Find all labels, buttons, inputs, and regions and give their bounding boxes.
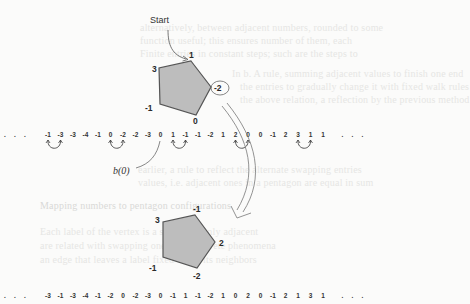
sequence-value: 3 <box>309 292 313 299</box>
ellipsis-dot: . <box>14 131 16 138</box>
sequence-value: -2 <box>133 131 139 138</box>
sequence-value: 1 <box>184 292 188 299</box>
top-vertex-label: 0 <box>193 116 198 126</box>
sequence-value: 1 <box>321 131 325 138</box>
sequence-value: 0 <box>159 131 163 138</box>
sequence-value: 1 <box>221 292 225 299</box>
sequence-value: -1 <box>270 292 276 299</box>
sequence-value: -3 <box>145 131 151 138</box>
sequence-value: -1 <box>183 131 189 138</box>
sequence-value: 1 <box>321 292 325 299</box>
sequence-value: -1 <box>45 131 51 138</box>
sequence-value: -4 <box>83 131 89 138</box>
sequence-value: -2 <box>120 131 126 138</box>
ellipsis-dot: . <box>352 292 354 299</box>
sequence-value: -3 <box>70 292 76 299</box>
ellipsis-dot: . <box>24 292 26 299</box>
sequence-value: 0 <box>259 292 263 299</box>
ellipsis-dot: . <box>342 131 344 138</box>
sequence-value: 2 <box>284 292 288 299</box>
sequence-value: 0 <box>159 292 163 299</box>
sequence-value: 2 <box>234 131 238 138</box>
sequence-value: -3 <box>58 131 64 138</box>
sequence-value: 2 <box>284 131 288 138</box>
swap-arc <box>110 140 123 148</box>
sequence-value: -1 <box>170 292 176 299</box>
sequence-value: -1 <box>95 292 101 299</box>
bottom-vertex-label: -2 <box>193 271 201 281</box>
sequence-value: -1 <box>58 292 64 299</box>
sequence-value: 0 <box>259 131 263 138</box>
sequence-value: 2 <box>246 292 250 299</box>
bzero-label: b(0) <box>113 165 130 177</box>
top-vertex-label: -1 <box>145 103 153 113</box>
top-pentagon <box>159 61 211 115</box>
ellipsis-dot: . <box>4 131 6 138</box>
sequence-value: 0 <box>234 292 238 299</box>
sequence-value: -2 <box>108 292 114 299</box>
sequence-value: -3 <box>70 131 76 138</box>
bzero-pointer <box>136 141 160 168</box>
ellipsis-dot: . <box>362 131 364 138</box>
swap-arc <box>173 140 186 148</box>
sequence-value: -2 <box>133 292 139 299</box>
ellipsis-dot: . <box>352 131 354 138</box>
sequence-value: -3 <box>145 292 151 299</box>
sequence-value: -1 <box>195 292 201 299</box>
ellipsis-dot: . <box>342 292 344 299</box>
top-vertex-label: 3 <box>152 64 157 74</box>
ellipsis-dot: . <box>24 131 26 138</box>
bottom-vertex-label: 2 <box>219 238 224 248</box>
start-arrow <box>168 30 186 59</box>
sequence-value: -4 <box>83 292 89 299</box>
sequence-value: -3 <box>45 292 51 299</box>
swap-arc <box>298 140 311 148</box>
sequence-value: 0 <box>109 131 113 138</box>
bottom-vertex-label: -1 <box>149 263 157 273</box>
sequence-value: -2 <box>208 292 214 299</box>
bottom-sequence: ...-3-1-3-4-1-20-2-30-11-1-21020-12131..… <box>4 292 364 299</box>
swap-arc <box>48 140 61 148</box>
sequence-value: 1 <box>221 131 225 138</box>
bottom-pentagon <box>163 215 215 268</box>
sequence-value: 1 <box>309 131 313 138</box>
sequence-value: 1 <box>171 131 175 138</box>
sequence-value: -1 <box>270 131 276 138</box>
top-vertex-label: -2 <box>214 83 222 93</box>
bottom-vertex-label: -1 <box>193 204 201 214</box>
top-sequence: ...-1-3-3-4-10-2-2-301-1-1-21200-12311..… <box>4 131 364 148</box>
top-vertex-label: 1 <box>189 50 194 60</box>
bottom-vertex-label: 3 <box>155 215 160 225</box>
sequence-value: 1 <box>296 292 300 299</box>
sequence-value: -1 <box>95 131 101 138</box>
swap-arc <box>235 140 248 148</box>
sequence-value: -1 <box>195 131 201 138</box>
ellipsis-dot: . <box>14 292 16 299</box>
sequence-value: -2 <box>208 131 214 138</box>
ellipsis-dot: . <box>4 292 6 299</box>
transition-arrow <box>222 103 256 218</box>
start-label: Start <box>150 15 170 25</box>
sequence-value: 3 <box>296 131 300 138</box>
ellipsis-dot: . <box>362 292 364 299</box>
sequence-value: 0 <box>121 292 125 299</box>
